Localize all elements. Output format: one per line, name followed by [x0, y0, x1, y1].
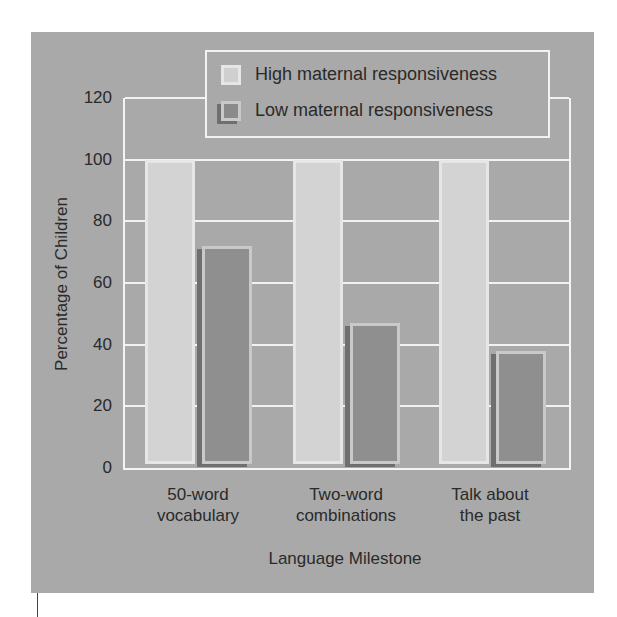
plot-area [123, 98, 571, 470]
x-category-2: Talk about the past [420, 484, 560, 526]
bar-low-2 [496, 351, 546, 464]
legend-item-high: High maternal responsiveness [221, 64, 497, 85]
y-tick-label: 80 [72, 211, 112, 231]
y-tick-label: 20 [72, 396, 112, 416]
x-category-line: the past [420, 505, 560, 526]
legend-item-low: Low maternal responsiveness [221, 100, 493, 121]
x-category-line: Talk about [420, 484, 560, 505]
y-tick-label: 100 [72, 150, 112, 170]
y-tick-label: 40 [72, 335, 112, 355]
legend-swatch-high [221, 65, 241, 85]
bar-low-1 [350, 323, 400, 464]
y-tick-label: 60 [72, 273, 112, 293]
x-category-1: Two-word combinations [276, 484, 416, 526]
x-category-line: vocabulary [128, 505, 268, 526]
legend-swatch-low [221, 101, 241, 121]
legend-label-low: Low maternal responsiveness [255, 100, 493, 121]
x-category-line: 50-word [128, 484, 268, 505]
y-axis-label: Percentage of Children [52, 197, 72, 371]
bar-high-1 [293, 160, 343, 464]
crop-mark [37, 593, 38, 617]
legend: High maternal responsiveness Low materna… [205, 50, 550, 138]
bar-low-0 [202, 246, 252, 464]
x-axis-label: Language Milestone [268, 549, 421, 569]
x-category-line: Two-word [276, 484, 416, 505]
y-tick-label: 120 [72, 88, 112, 108]
x-category-line: combinations [276, 505, 416, 526]
legend-label-high: High maternal responsiveness [255, 64, 497, 85]
bar-high-2 [439, 160, 489, 464]
bar-high-0 [145, 160, 195, 464]
y-tick-label: 0 [72, 458, 112, 478]
x-category-0: 50-word vocabulary [128, 484, 268, 526]
